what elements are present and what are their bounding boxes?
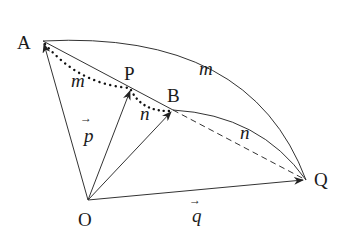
label-segment-ap-m: m <box>71 70 85 91</box>
label-arc-aq-m: m <box>199 58 213 79</box>
label-point-p: P <box>124 63 135 84</box>
label-arc-bq-n: n <box>240 122 250 143</box>
dashed-b-q <box>173 110 306 180</box>
label-point-q: Q <box>314 169 328 190</box>
label-segment-pb-n: n <box>140 103 150 124</box>
label-point-o: O <box>78 209 92 230</box>
dotted-arc-p-b <box>131 90 171 111</box>
label-point-a: A <box>17 32 31 53</box>
label-point-b: B <box>167 85 180 106</box>
label-vector-q: q <box>192 205 202 226</box>
vector-p-arrow-icon: → <box>80 111 92 125</box>
label-vector-p: p <box>82 125 94 146</box>
vector-diagram: A P B O Q m n m n → p → q <box>0 0 357 248</box>
vector-o-p <box>88 91 130 200</box>
vector-o-b <box>88 112 171 200</box>
diagram-svg: A P B O Q m n m n → p → q <box>0 0 357 248</box>
segment-a-b <box>43 41 173 110</box>
